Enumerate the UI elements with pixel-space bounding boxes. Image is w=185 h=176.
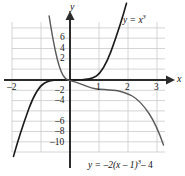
y-axis — [66, 11, 75, 168]
curve-label-transformed-cubic: y = –2(x – 1)3– 4 — [88, 161, 153, 171]
y-axis-label: y — [70, 2, 74, 12]
y-tick-label--4: –4 — [55, 96, 65, 106]
curve2-equation-base: y = –2(x – 1) — [88, 160, 138, 170]
x-tick-label--2: –2 — [7, 83, 17, 93]
y-tick-label-6: 6 — [60, 33, 65, 43]
curve1-exponent: 3 — [143, 13, 146, 20]
x-axis-label: x — [177, 74, 181, 84]
y-tick-label--10: –10 — [50, 138, 64, 148]
grid-lines-extra — [12, 28, 165, 152]
curve-label-y-equals-x-cubed: y = x3 — [123, 16, 146, 26]
curve1-equation-base: y = x — [123, 15, 143, 25]
x-axis — [4, 76, 175, 85]
y-tick-label-2: 2 — [60, 54, 65, 64]
y-tick-label--8: –8 — [55, 127, 65, 137]
x-tick-label-2: 2 — [125, 83, 130, 93]
x-tick-label-3: 3 — [154, 83, 159, 93]
x-tick-label-1: 1 — [96, 83, 101, 93]
curve2-equation-tail: – 4 — [141, 160, 153, 170]
cubic-functions-graph: –2 1 2 3 6 4 2 –2 –4 –6 –8 –10 y x y = x… — [0, 0, 185, 176]
